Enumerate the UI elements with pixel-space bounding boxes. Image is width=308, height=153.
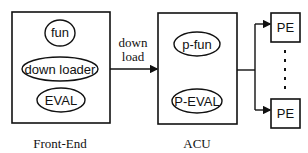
acu-caption: ACU [183, 136, 211, 151]
pe-bottom-label: PE [277, 106, 295, 121]
down-loader-label: down loader [25, 62, 96, 77]
arrow-label-line1: down [119, 35, 148, 50]
vertical-ellipsis [284, 50, 286, 89]
fun-label: fun [51, 25, 69, 40]
architecture-diagram: fun down loader EVAL Front-End down load… [0, 0, 308, 153]
p-fun-label: p-fun [182, 37, 212, 52]
p-eval-label: P-EVAL [174, 94, 219, 109]
pe-top-label: PE [277, 20, 295, 35]
front-end-caption: Front-End [33, 136, 87, 151]
arrow-label-line2: load [122, 49, 145, 64]
eval-label: EVAL [45, 93, 77, 108]
